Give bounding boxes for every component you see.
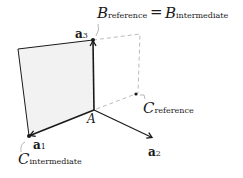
leader-b	[96, 24, 99, 36]
label-origin-a: A	[87, 113, 96, 125]
vector-a3	[93, 41, 94, 110]
point-b	[91, 38, 95, 42]
shaded-face	[18, 40, 94, 136]
point-c-intermediate	[27, 134, 31, 138]
label-c-reference: Creference	[143, 101, 194, 116]
label-c-intermediate: Cintermediate	[18, 152, 82, 167]
label-a3: a3	[75, 28, 88, 40]
point-c-reference	[134, 92, 137, 95]
label-a2: a2	[148, 146, 161, 158]
dashed-reference-path	[93, 34, 140, 110]
label-equals: =	[150, 5, 163, 20]
label-a1: a1	[33, 139, 46, 151]
label-b-reference: Breference	[97, 6, 147, 21]
label-b-intermediate: Bintermediate	[165, 6, 228, 21]
